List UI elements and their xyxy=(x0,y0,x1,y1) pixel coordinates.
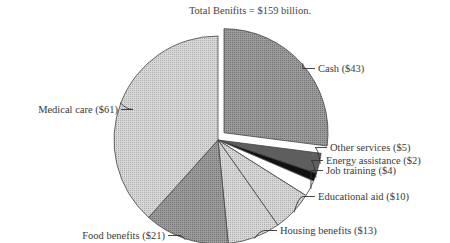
pie-slice-cash xyxy=(224,29,328,146)
slice-label-food-benefits: Food benefits ($21) xyxy=(82,230,165,242)
pie-chart: Total Benifits = $159 billion. Cash ($43… xyxy=(0,0,450,243)
pie-slices xyxy=(114,29,328,243)
slice-label-housing-benefits: Housing benefits ($13) xyxy=(280,225,377,237)
slice-label-medical-care: Medical care ($61) xyxy=(38,104,118,116)
chart-title: Total Benifits = $159 billion. xyxy=(189,5,311,16)
slice-label-cash: Cash ($43) xyxy=(318,63,365,75)
slice-label-other-services: Other services ($5) xyxy=(330,142,411,154)
slice-label-job-training: Job training ($4) xyxy=(326,165,396,177)
slice-label-educational-aid: Educational aid ($10) xyxy=(318,191,409,203)
